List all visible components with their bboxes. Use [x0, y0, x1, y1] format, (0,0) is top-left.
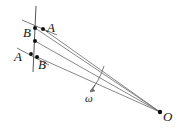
ray-mid-to-origin — [35, 41, 160, 112]
point-a-upper — [41, 27, 45, 31]
point-origin — [158, 110, 162, 114]
ray-b-upper-to-origin — [35, 28, 160, 112]
label-b-lower: B — [38, 58, 46, 71]
label-origin: O — [163, 110, 172, 123]
point-a-lower — [29, 52, 33, 56]
vertical-axis-line — [33, 6, 36, 72]
label-omega: ω — [85, 93, 93, 104]
point-mid — [33, 39, 37, 43]
figure-container: A B A B ω O — [0, 0, 179, 130]
label-b-upper: B — [23, 26, 31, 39]
ray-b-lower-to-origin — [37, 57, 160, 112]
geometry-diagram-svg — [0, 0, 179, 130]
label-a-lower: A — [14, 50, 22, 63]
omega-arrowhead-icon — [90, 85, 95, 92]
ray-a-upper-to-origin — [43, 29, 160, 112]
point-b-upper — [33, 26, 37, 30]
label-a-upper: A — [47, 21, 55, 34]
